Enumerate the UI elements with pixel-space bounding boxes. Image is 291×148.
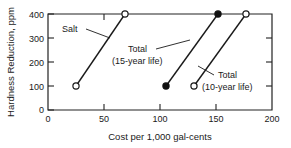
- annotation-salt-label: Salt: [62, 24, 78, 34]
- series-total-10yr-point-high: [243, 11, 249, 17]
- annotation-total-15yr-leader: [156, 40, 190, 49]
- annotation-total-15yr-line2: (15-year life): [112, 56, 163, 66]
- series-salt-point-high: [122, 11, 128, 17]
- y-tick-label-300: 300: [29, 34, 44, 44]
- annotation-total-10yr-leader: [198, 66, 214, 75]
- annotation-total-10yr-line1: Total: [218, 70, 237, 80]
- y-tick-label-0: 0: [39, 105, 44, 115]
- series-salt: [73, 11, 128, 89]
- y-tick-label-400: 400: [29, 10, 44, 20]
- x-tick-label-0: 0: [45, 114, 50, 124]
- chart-svg: 400 300 200 100 0 0 50 100 150 200 Cost …: [0, 0, 291, 148]
- series-salt-point-low: [73, 83, 79, 89]
- annotation-total-15yr: Total (15-year life): [112, 40, 190, 66]
- annotation-salt-leader: [86, 29, 110, 38]
- series-salt-line: [76, 14, 125, 86]
- x-tick-label-100: 100: [152, 114, 167, 124]
- x-tick-label-200: 200: [264, 114, 279, 124]
- series-total-10yr-point-low: [191, 83, 197, 89]
- series-total-15yr-line: [166, 14, 218, 86]
- chart-figure: 400 300 200 100 0 0 50 100 150 200 Cost …: [0, 0, 291, 148]
- y-tick-labels: 400 300 200 100 0: [29, 10, 44, 116]
- x-tick-label-150: 150: [208, 114, 223, 124]
- series-total-15yr: [163, 11, 221, 89]
- y-tick-label-100: 100: [29, 82, 44, 92]
- series-total-15yr-point-high: [215, 11, 221, 17]
- x-tick-label-50: 50: [99, 114, 109, 124]
- y-tick-label-200: 200: [29, 58, 44, 68]
- x-tick-labels: 0 50 100 150 200: [45, 114, 279, 124]
- annotation-total-10yr-line2: (10-year life): [202, 82, 253, 92]
- annotation-salt: Salt: [62, 24, 110, 38]
- annotation-total-15yr-line1: Total: [128, 44, 147, 54]
- series-total-15yr-point-low: [163, 83, 169, 89]
- y-axis-title: Hardness Reduction, ppm: [5, 7, 16, 117]
- x-axis-title: Cost per 1,000 gal-cents: [108, 131, 212, 142]
